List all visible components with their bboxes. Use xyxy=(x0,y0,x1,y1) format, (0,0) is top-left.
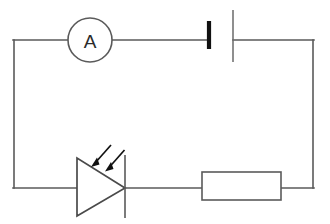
resistor-body xyxy=(202,172,281,200)
photodiode-light-arrow-2 xyxy=(105,150,125,172)
photodiode-light-arrow-1 xyxy=(91,145,111,167)
circuit-diagram-canvas: A xyxy=(0,0,330,224)
ammeter: A xyxy=(68,18,112,62)
cell-battery xyxy=(209,10,233,62)
resistor xyxy=(202,172,281,200)
photodiode xyxy=(77,145,125,218)
circuit-schematic: A xyxy=(0,0,330,224)
ammeter-label: A xyxy=(84,31,97,52)
circuit-wiring xyxy=(13,40,314,188)
photodiode-triangle xyxy=(77,158,125,216)
